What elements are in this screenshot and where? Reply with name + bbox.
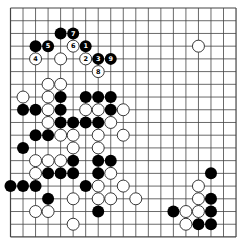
- black-stone: [205, 167, 217, 179]
- move-number-label: 2: [83, 55, 88, 63]
- white-stone: [30, 167, 42, 179]
- go-board[interactable]: 751396428: [0, 0, 244, 248]
- white-stone: [67, 129, 79, 141]
- black-stone: [55, 91, 67, 103]
- white-stone: [67, 218, 79, 230]
- white-stone: [92, 193, 104, 205]
- white-stone: [30, 155, 42, 167]
- black-stone: [105, 155, 117, 167]
- white-stone: 8: [92, 66, 104, 78]
- white-stone: [92, 180, 104, 192]
- black-stone: [205, 206, 217, 218]
- white-stone: [192, 193, 204, 205]
- move-number-label: 8: [96, 68, 101, 76]
- white-stone: [42, 206, 54, 218]
- white-stone: [42, 104, 54, 116]
- white-stone: [180, 218, 192, 230]
- black-stone: [92, 167, 104, 179]
- move-number-label: 6: [71, 42, 76, 50]
- black-stone: [30, 40, 42, 52]
- move-number-label: 4: [33, 55, 38, 63]
- white-stone: [92, 142, 104, 154]
- white-stone: [105, 167, 117, 179]
- white-stone: [92, 129, 104, 141]
- white-stone: [105, 116, 117, 128]
- black-stone: [92, 116, 104, 128]
- black-stone: [92, 91, 104, 103]
- black-stone: [67, 116, 79, 128]
- move-number-label: 3: [96, 55, 101, 63]
- white-stone: [117, 180, 129, 192]
- black-stone: [67, 167, 79, 179]
- white-stone: [55, 78, 67, 90]
- black-stone: 3: [92, 53, 104, 65]
- move-number-label: 7: [71, 30, 76, 38]
- black-stone: [30, 104, 42, 116]
- white-stone: [130, 193, 142, 205]
- white-stone: [67, 142, 79, 154]
- black-stone: [67, 155, 79, 167]
- black-stone: [42, 129, 54, 141]
- black-stone: [80, 180, 92, 192]
- black-stone: [167, 206, 179, 218]
- black-stone: [30, 180, 42, 192]
- black-stone: [55, 27, 67, 39]
- white-stone: [42, 155, 54, 167]
- white-stone: 4: [30, 53, 42, 65]
- white-stone: [42, 78, 54, 90]
- black-stone: [192, 218, 204, 230]
- white-stone: [42, 116, 54, 128]
- black-stone: [105, 91, 117, 103]
- black-stone: 5: [42, 40, 54, 52]
- white-stone: [192, 40, 204, 52]
- black-stone: 1: [80, 40, 92, 52]
- black-stone: [55, 116, 67, 128]
- white-stone: [180, 206, 192, 218]
- white-stone: [105, 193, 117, 205]
- white-stone: [80, 104, 92, 116]
- black-stone: [55, 104, 67, 116]
- white-stone: [17, 91, 29, 103]
- white-stone: [117, 129, 129, 141]
- white-stone: [55, 155, 67, 167]
- move-number-label: 5: [46, 42, 51, 50]
- white-stone: [30, 206, 42, 218]
- black-stone: [105, 104, 117, 116]
- black-stone: [205, 193, 217, 205]
- black-stone: [80, 116, 92, 128]
- white-stone: [192, 206, 204, 218]
- black-stone: [55, 167, 67, 179]
- black-stone: [42, 193, 54, 205]
- move-number-label: 1: [83, 42, 88, 50]
- stones-layer: 751396428: [5, 27, 217, 230]
- move-number-label: 9: [108, 55, 113, 63]
- black-stone: [5, 180, 17, 192]
- white-stone: [192, 180, 204, 192]
- black-stone: [205, 218, 217, 230]
- black-stone: [30, 129, 42, 141]
- black-stone: [17, 104, 29, 116]
- white-stone: [55, 129, 67, 141]
- black-stone: [17, 180, 29, 192]
- black-stone: [92, 206, 104, 218]
- black-stone: [42, 167, 54, 179]
- white-stone: [92, 104, 104, 116]
- white-stone: 6: [67, 40, 79, 52]
- black-stone: [92, 155, 104, 167]
- white-stone: [67, 193, 79, 205]
- black-stone: [17, 142, 29, 154]
- white-stone: 2: [80, 53, 92, 65]
- black-stone: [80, 91, 92, 103]
- white-stone: [42, 91, 54, 103]
- white-stone: [117, 104, 129, 116]
- black-stone: 7: [67, 27, 79, 39]
- black-stone: 9: [105, 53, 117, 65]
- white-stone: [55, 53, 67, 65]
